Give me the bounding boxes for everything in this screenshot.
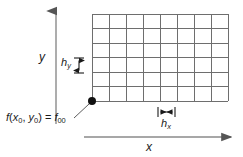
figure-canvas bbox=[0, 0, 243, 157]
sub-x-zero: 0 bbox=[18, 116, 22, 125]
hx-label: hx bbox=[161, 118, 171, 129]
sub-y-zero: 0 bbox=[34, 116, 38, 125]
origin-value-label: f(x0, y0) = f00 bbox=[6, 112, 66, 123]
result-subscript: 00 bbox=[57, 116, 65, 125]
hx-subscript: x bbox=[167, 122, 171, 131]
hx-spacing-marker bbox=[158, 107, 175, 117]
y-axis-label: y bbox=[39, 51, 45, 63]
hy-spacing-marker bbox=[74, 58, 84, 73]
mesh-grid bbox=[92, 14, 228, 101]
hy-subscript: y bbox=[67, 61, 71, 70]
grid-mesh-figure: y x hy hx f(x0, y0) = f00 bbox=[0, 0, 243, 157]
hy-label: hy bbox=[61, 57, 71, 68]
equals-sign: = bbox=[42, 111, 55, 123]
origin-dot bbox=[88, 97, 96, 105]
x-axis-label: x bbox=[146, 141, 152, 153]
origin-leader-line bbox=[74, 104, 89, 118]
